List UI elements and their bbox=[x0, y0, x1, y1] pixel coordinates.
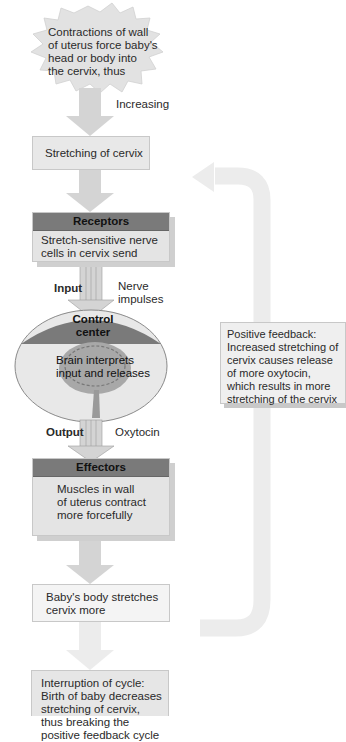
stretching-box: Stretching of cervix bbox=[32, 136, 150, 170]
oxytocin-label: Oxytocin bbox=[115, 426, 160, 439]
receptors-box: Receptors Stretch-sensitive nerve cells … bbox=[32, 212, 170, 262]
receptors-line: Stretch-sensitive nerve bbox=[41, 234, 161, 247]
output-label: Output bbox=[46, 426, 84, 439]
baby-line: Baby's body stretches bbox=[46, 591, 169, 604]
effectors-line: more forcefully bbox=[57, 509, 169, 522]
starburst-text: Contractions of wall of uterus force bab… bbox=[48, 26, 158, 78]
nerve-label-line: impulses bbox=[118, 293, 163, 306]
increasing-label: Increasing bbox=[116, 98, 169, 111]
nerve-label-line: Nerve bbox=[118, 280, 163, 293]
interruption-line: positive feedback cycle bbox=[41, 729, 168, 742]
receptors-header: Receptors bbox=[33, 213, 169, 231]
feedback-line: Increased stretching of bbox=[227, 341, 339, 354]
baby-line: cervix more bbox=[46, 604, 169, 617]
effectors-line: Muscles in wall bbox=[57, 483, 169, 496]
interruption-line: thus breaking the bbox=[41, 716, 168, 729]
starburst-line: the cervix, thus bbox=[48, 65, 158, 78]
interruption-box: Interruption of cycle: Birth of baby dec… bbox=[31, 670, 169, 716]
feedback-line: Positive feedback: bbox=[227, 328, 339, 341]
control-line: input and releases bbox=[56, 367, 150, 380]
baby-stretches-box: Baby's body stretches cervix more bbox=[32, 584, 170, 622]
effectors-line: of uterus contract bbox=[57, 496, 169, 509]
control-center-header: Control center bbox=[58, 313, 128, 339]
feedback-line: which results in more bbox=[227, 380, 339, 393]
interruption-line: Interruption of cycle: bbox=[41, 677, 168, 690]
control-center-text: Brain interprets input and releases bbox=[56, 354, 150, 380]
feedback-line: of more oxytocin, bbox=[227, 367, 339, 380]
effectors-box: Effectors Muscles in wall of uterus cont… bbox=[32, 458, 170, 536]
control-line: Brain interprets bbox=[56, 354, 150, 367]
input-label: Input bbox=[54, 282, 82, 295]
interruption-line: stretching of cervix, bbox=[41, 703, 168, 716]
nerve-impulses-label: Nerve impulses bbox=[118, 280, 163, 306]
feedback-loop-arrowhead bbox=[192, 162, 214, 192]
feedback-line: stretching of the cervix bbox=[227, 393, 339, 406]
starburst-line: of uterus force baby's bbox=[48, 39, 158, 52]
receptors-line: cells in cervix send bbox=[41, 247, 161, 260]
stretching-text: Stretching of cervix bbox=[33, 137, 149, 160]
starburst-line: head or body into bbox=[48, 52, 158, 65]
effectors-header: Effectors bbox=[33, 459, 169, 477]
starburst-line: Contractions of wall bbox=[48, 26, 158, 39]
interruption-line: Birth of baby decreases bbox=[41, 690, 168, 703]
feedback-line: cervix causes release bbox=[227, 354, 339, 367]
positive-feedback-box: Positive feedback: Increased stretching … bbox=[220, 322, 346, 404]
